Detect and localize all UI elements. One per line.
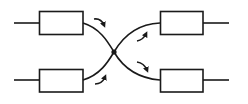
- block-top-right: [161, 12, 204, 35]
- arrow-bottom-right-icon: [137, 62, 147, 70]
- arrow-bottom-left-icon: [95, 77, 105, 84]
- arrow-top-left-icon: [94, 19, 104, 25]
- arrow-top-right-icon: [137, 34, 146, 41]
- block-top-left: [40, 12, 84, 35]
- block-bottom-left: [40, 70, 84, 93]
- curve-top-left-to-bottom-right: [83, 23, 160, 80]
- block-bottom-right: [161, 70, 204, 93]
- curve-bottom-left-to-top-right: [83, 23, 160, 80]
- junction-dot: [111, 49, 116, 54]
- crossing-diagram: [0, 0, 248, 104]
